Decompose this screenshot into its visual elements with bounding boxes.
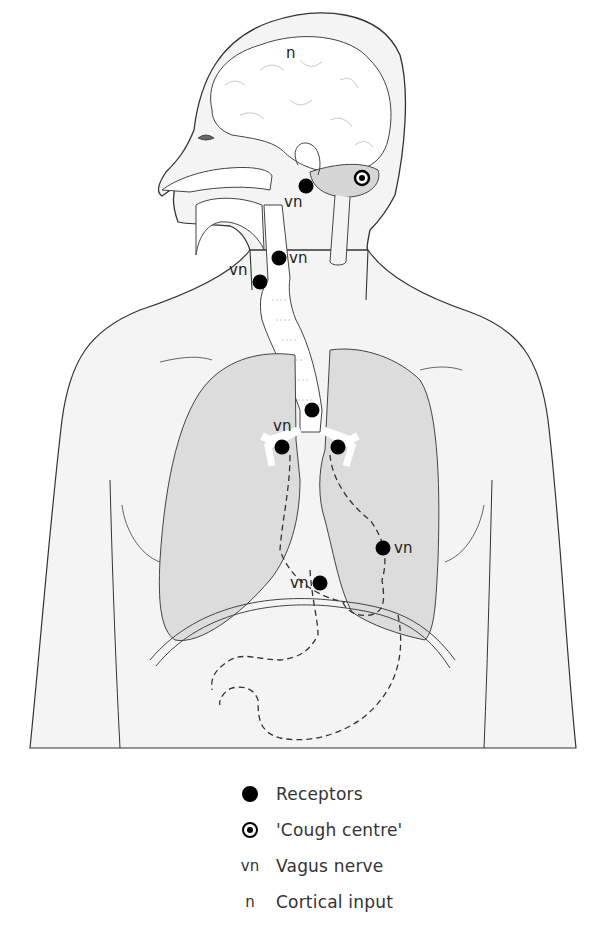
torso-outline (30, 230, 576, 748)
receptor-dot (272, 251, 287, 266)
n-symbol: n (230, 893, 270, 911)
vagus-label: vn (284, 193, 302, 211)
legend-label: 'Cough centre' (276, 820, 402, 840)
receptor-dot (313, 576, 328, 591)
legend-label: Cortical input (276, 892, 393, 912)
cortical-input-label: n (286, 44, 296, 62)
legend-item-cough-centre: 'Cough centre' (230, 812, 490, 848)
receptor-dot (376, 541, 391, 556)
legend: Receptors 'Cough centre' vn Vagus nerve … (230, 776, 490, 920)
cough-reflex-diagram: n vn vn vn vn vn vn (0, 0, 606, 760)
receptor-dot (331, 440, 346, 455)
legend-label: Receptors (276, 784, 363, 804)
cough-centre-icon (242, 822, 258, 838)
receptor-dot (305, 403, 320, 418)
vagus-label: vn (229, 261, 247, 279)
vagus-label: vn (273, 417, 291, 435)
vagus-label: vn (289, 249, 307, 267)
legend-item-cortical-input: n Cortical input (230, 884, 490, 920)
receptor-dot (275, 440, 290, 455)
legend-item-vagus-nerve: vn Vagus nerve (230, 848, 490, 884)
vn-symbol: vn (230, 857, 270, 875)
vagus-label: vn (290, 574, 308, 592)
receptor-dot (299, 179, 314, 194)
vagus-label: vn (394, 539, 412, 557)
receptor-dot (253, 275, 268, 290)
legend-item-receptors: Receptors (230, 776, 490, 812)
cough-centre-icon (355, 171, 369, 185)
legend-label: Vagus nerve (276, 856, 384, 876)
receptor-dot-icon (242, 786, 258, 802)
